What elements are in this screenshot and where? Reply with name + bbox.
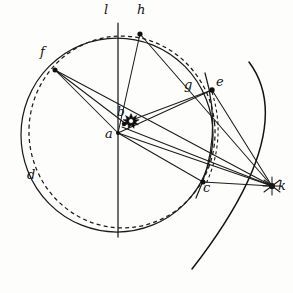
point-label-e: e (216, 75, 224, 88)
point-marker-h (137, 31, 142, 36)
line-b-k (122, 127, 272, 186)
point-label-l: l (104, 3, 108, 16)
sun-icon (123, 114, 139, 129)
point-label-c: c (203, 181, 210, 194)
point-marker-e (209, 87, 214, 92)
point-label-f: f (40, 45, 45, 58)
geometry-diagram-canvas: a b c d e f g h k l (0, 0, 293, 293)
point-marker-a (116, 131, 120, 135)
line-b-e (124, 90, 212, 123)
line-f-k (55, 70, 272, 186)
line-a-f (55, 70, 118, 133)
point-marker-f (53, 68, 58, 73)
point-label-g: g (184, 78, 192, 91)
solid-main-circle (21, 38, 213, 232)
line-f-b (55, 70, 126, 124)
dashed-eccentric-circle (19, 27, 224, 237)
point-label-k: k (278, 179, 286, 192)
point-label-d: d (27, 168, 35, 181)
point-label-b: b (117, 106, 125, 118)
point-label-a: a (105, 127, 113, 140)
point-label-h: h (137, 3, 145, 16)
